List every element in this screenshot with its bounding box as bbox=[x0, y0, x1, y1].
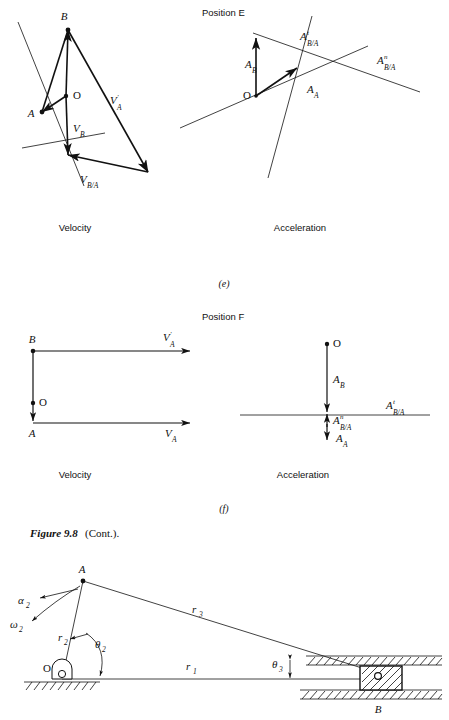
vector-aa bbox=[256, 68, 297, 96]
svg-text:3: 3 bbox=[198, 610, 203, 619]
label-v-b-over-a: V B/A bbox=[80, 173, 99, 190]
svg-text:A: A bbox=[169, 340, 175, 349]
construction-line-aa-direction bbox=[180, 46, 368, 128]
point-o-dot bbox=[31, 401, 35, 405]
panel-e-velocity-diagram: B A O V ′ A V B V B/A Velocity bbox=[18, 10, 148, 233]
svg-text:A: A bbox=[342, 440, 348, 449]
link-r3-coupler bbox=[83, 581, 378, 673]
label-point-a: A bbox=[28, 427, 36, 439]
svg-text:t: t bbox=[307, 29, 310, 37]
panel-f-velocity-title: Velocity bbox=[59, 469, 92, 480]
label-a-t-b-over-a: A t B/A bbox=[299, 29, 319, 48]
point-a-dot bbox=[40, 110, 45, 115]
panel-e-velocity-title: Velocity bbox=[59, 222, 92, 233]
svg-text:α: α bbox=[18, 594, 24, 606]
label-r1: r 1 bbox=[186, 660, 197, 676]
point-b-dot bbox=[31, 349, 36, 354]
label-point-b: B bbox=[375, 703, 382, 715]
edge-a-to-b bbox=[42, 30, 68, 112]
svg-text:B: B bbox=[252, 66, 257, 75]
svg-text:θ: θ bbox=[272, 658, 278, 670]
svg-text:B/A: B/A bbox=[393, 408, 405, 417]
slider-crank-mechanism: A O α 2 ω 2 r 2 θ bbox=[10, 563, 442, 715]
svg-text:A: A bbox=[244, 58, 252, 70]
panel-letter-f: (f) bbox=[219, 503, 229, 515]
guide-upper-hatch bbox=[308, 657, 442, 665]
point-b-dot bbox=[66, 28, 71, 33]
construction-line-va-direction bbox=[18, 22, 84, 186]
figure-caption-text: (Cont.). bbox=[85, 527, 119, 540]
label-a-n-b-over-a: A n B/A bbox=[376, 53, 396, 72]
panel-f-position-label: Position F bbox=[202, 311, 244, 322]
svg-text:A: A bbox=[171, 435, 177, 444]
vector-vb bbox=[66, 96, 68, 155]
pivot-pin bbox=[58, 670, 65, 677]
panel-e-acceleration-title: Acceleration bbox=[274, 222, 326, 233]
svg-text:A: A bbox=[299, 30, 307, 42]
point-a-dot bbox=[81, 579, 86, 584]
svg-text:t: t bbox=[393, 398, 396, 406]
r2-leader bbox=[70, 634, 88, 639]
point-o-dot bbox=[325, 342, 329, 346]
point-o-dot bbox=[254, 94, 258, 98]
guide-lower-hatch bbox=[302, 691, 442, 699]
svg-text:B/A: B/A bbox=[87, 181, 99, 190]
figure-caption: Figure 9.8 (Cont.). bbox=[29, 527, 119, 540]
svg-text:ω: ω bbox=[10, 618, 18, 630]
vector-va-prime bbox=[68, 30, 148, 172]
svg-text:B: B bbox=[340, 381, 345, 390]
label-a-n-b-over-a: A n B/A bbox=[332, 413, 352, 432]
slider-pin bbox=[375, 673, 382, 680]
svg-text:B/A: B/A bbox=[340, 423, 352, 432]
svg-text:A: A bbox=[332, 414, 340, 426]
svg-text:A: A bbox=[376, 54, 384, 66]
figure-9-8-continued: B A O V ′ A V B V B/A Velocity Posit bbox=[0, 0, 449, 720]
vector-vb-over-a bbox=[68, 155, 148, 172]
svg-text:2: 2 bbox=[26, 601, 30, 610]
svg-text:2: 2 bbox=[102, 645, 106, 654]
svg-text:3: 3 bbox=[278, 665, 283, 674]
label-point-o: O bbox=[73, 89, 81, 101]
svg-text:n: n bbox=[384, 53, 388, 61]
figure-page: B A O V ′ A V B V B/A Velocity Posit bbox=[0, 0, 449, 720]
label-alpha2: α 2 bbox=[18, 594, 30, 610]
label-omega2: ω 2 bbox=[10, 618, 23, 634]
panel-e-acceleration-diagram: Position E O A t B/A A n B/A bbox=[180, 7, 420, 233]
label-v-b: V B bbox=[73, 122, 85, 139]
svg-text:n: n bbox=[340, 413, 344, 421]
svg-text:A: A bbox=[332, 373, 340, 385]
svg-text:r: r bbox=[186, 660, 191, 672]
panel-e-position-label: Position E bbox=[202, 7, 245, 18]
label-aa: A A bbox=[306, 83, 319, 100]
ground-hatch-left bbox=[26, 682, 96, 690]
label-point-o: O bbox=[243, 89, 251, 101]
panel-f-velocity-diagram: B A O V ′ A V A Velocity bbox=[28, 330, 190, 480]
panel-f-acceleration-title: Acceleration bbox=[277, 469, 329, 480]
panel-letter-e: (e) bbox=[218, 278, 230, 290]
svg-text:A: A bbox=[116, 103, 122, 112]
svg-text:′: ′ bbox=[117, 93, 119, 101]
label-ab: A B bbox=[244, 58, 257, 75]
svg-text:r: r bbox=[192, 603, 197, 615]
label-theta3: θ 3 bbox=[272, 658, 283, 674]
figure-caption-number: Figure 9.8 bbox=[29, 527, 78, 539]
label-ab: A B bbox=[332, 373, 345, 390]
label-point-b: B bbox=[61, 10, 68, 22]
vector-o-to-b bbox=[66, 30, 68, 96]
svg-text:′: ′ bbox=[170, 330, 172, 338]
svg-text:A: A bbox=[313, 91, 319, 100]
point-o-dot bbox=[64, 94, 68, 98]
svg-text:A: A bbox=[335, 432, 343, 444]
label-point-a: A bbox=[27, 107, 35, 119]
label-r2: r 2 bbox=[58, 631, 68, 647]
label-point-o: O bbox=[43, 662, 51, 674]
omega2-arrow bbox=[32, 586, 80, 621]
label-point-a: A bbox=[78, 563, 86, 575]
svg-text:A: A bbox=[385, 399, 393, 411]
label-v-a-prime: V ′ A bbox=[163, 330, 175, 349]
label-aa: A A bbox=[335, 432, 348, 449]
svg-text:r: r bbox=[58, 631, 63, 643]
svg-text:B/A: B/A bbox=[307, 39, 319, 48]
panel-f-acceleration-diagram: Position F O A B A t B/A bbox=[202, 311, 430, 480]
svg-text:1: 1 bbox=[193, 667, 197, 676]
